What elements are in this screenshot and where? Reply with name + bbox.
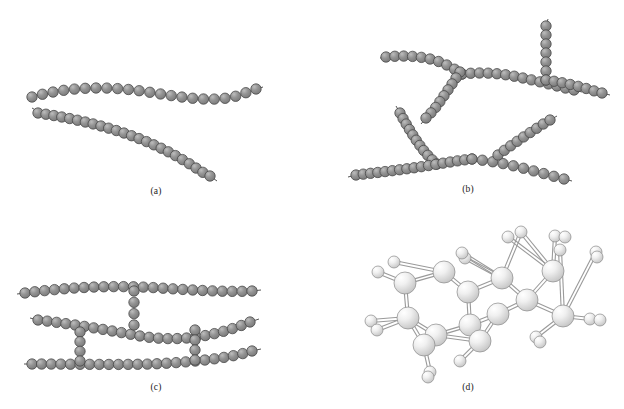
chain-bead	[467, 154, 477, 164]
chain-bead	[129, 286, 139, 296]
chain-bead	[75, 356, 85, 366]
chain-bead	[155, 89, 165, 99]
chain-bead	[549, 171, 559, 181]
chain-bead	[190, 335, 200, 345]
chain-bead	[107, 326, 117, 336]
chain-bead	[30, 287, 40, 297]
polymer-structures-figure: (a) (b)	[0, 0, 624, 409]
chain-bead	[190, 355, 200, 365]
chain-bead	[135, 331, 145, 341]
chain-bead	[597, 88, 607, 98]
chain-bead	[102, 83, 112, 93]
bead-group-a	[27, 83, 261, 181]
chain-bead	[145, 87, 155, 97]
chain-bead	[148, 282, 158, 292]
network-atom-small	[559, 231, 571, 243]
chain-bead	[197, 285, 207, 295]
chain-bead	[56, 359, 66, 369]
chain-bead	[91, 83, 101, 93]
chain-bead	[99, 282, 109, 292]
chain-bead	[133, 359, 143, 369]
network-atom-small	[454, 355, 466, 367]
chain-bead	[152, 359, 162, 369]
atom-group-d	[365, 226, 606, 383]
chain-bead	[51, 317, 61, 327]
network-atom-large	[457, 281, 479, 303]
chain-bead	[559, 174, 569, 184]
chain-bead	[39, 285, 49, 295]
panel-b-caption: (b)	[312, 184, 624, 194]
chain-bead	[190, 345, 200, 355]
chain-bead	[220, 93, 230, 103]
chain-bead	[158, 283, 168, 293]
chain-bead	[230, 91, 240, 101]
chain-bead	[75, 336, 85, 346]
chain-bead	[171, 357, 181, 367]
chain-bead	[123, 84, 133, 94]
network-atom-large	[552, 305, 574, 327]
chain-bead	[36, 359, 46, 369]
chain-bead	[48, 87, 58, 97]
chain-bead	[209, 94, 219, 104]
chain-bead	[545, 115, 555, 125]
chain-bead	[33, 315, 43, 325]
network-atom-large	[413, 334, 435, 356]
network-atom-small	[515, 226, 527, 238]
chain-bead	[98, 324, 108, 334]
chain-bead	[37, 89, 47, 99]
chain-bead	[187, 93, 197, 103]
chain-bead	[245, 317, 255, 327]
chain-bead	[59, 284, 69, 294]
chain-bead	[190, 325, 200, 335]
network-atom-small	[371, 324, 383, 336]
chain-bead	[59, 85, 69, 95]
network-atom-large	[491, 267, 513, 289]
network-atom-small	[502, 231, 514, 243]
chain-bead	[46, 359, 56, 369]
chain-bead	[528, 166, 538, 176]
chain-bead	[144, 332, 154, 342]
chain-bead	[89, 323, 99, 333]
network-atom-large	[542, 260, 564, 282]
panel-d-caption: (d)	[312, 382, 624, 392]
panel-a-linear: (a)	[0, 0, 312, 205]
chain-bead	[166, 90, 176, 100]
chain-bead	[238, 348, 248, 358]
network-atom-small	[372, 266, 384, 278]
panel-d-graphic	[312, 205, 624, 409]
chain-bead	[207, 286, 217, 296]
chain-bead	[163, 333, 173, 343]
chain-bead	[227, 286, 237, 296]
chain-bead	[200, 355, 210, 365]
chain-bead	[61, 318, 71, 328]
chain-bead	[209, 354, 219, 364]
chain-bead	[42, 316, 52, 326]
chain-bead	[118, 281, 128, 291]
chain-bead	[477, 155, 487, 165]
panel-c-caption: (c)	[0, 382, 312, 392]
panel-c-crosslinked: (c)	[0, 205, 312, 409]
panel-a-caption: (a)	[0, 186, 312, 196]
chain-bead	[129, 320, 139, 330]
network-atom-small	[534, 336, 546, 348]
chain-bead	[539, 168, 549, 178]
chain-bead	[94, 359, 104, 369]
chain-bead	[161, 358, 171, 368]
chain-bead	[27, 359, 37, 369]
chain-bead	[80, 83, 90, 93]
chain-bead	[113, 359, 123, 369]
chain-bead	[518, 163, 528, 173]
bead-group-b	[351, 21, 607, 184]
panel-a-graphic	[0, 0, 312, 205]
network-atom-small	[554, 244, 566, 256]
chain-bead	[508, 161, 518, 171]
chain-bead	[188, 285, 198, 295]
chain-bead	[49, 284, 59, 294]
chain-bead	[241, 88, 251, 98]
chain-bead	[89, 282, 99, 292]
network-atom-large	[469, 330, 491, 352]
chain-bead	[421, 113, 431, 123]
chain-bead	[200, 330, 210, 340]
chain-bead	[247, 346, 257, 356]
chain-bead	[134, 86, 144, 96]
